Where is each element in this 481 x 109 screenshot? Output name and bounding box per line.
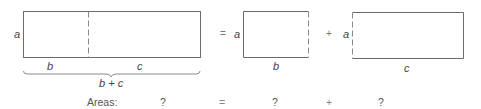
- whole-width-label-b: b: [47, 61, 53, 72]
- total-width-label: b + c: [99, 78, 123, 89]
- plus-sign: +: [326, 29, 332, 39]
- part-c-height-label: a: [343, 29, 349, 40]
- whole-area-value: ?: [160, 97, 166, 108]
- part-b-height-label: a: [234, 29, 240, 40]
- part-b-area-value: ?: [272, 97, 278, 108]
- part-b-width-label: b: [273, 61, 279, 72]
- whole-height-label: a: [14, 29, 20, 40]
- areas-plus-sign: +: [326, 97, 332, 108]
- part-c-area-value: ?: [378, 97, 384, 108]
- whole-rectangle: [24, 12, 201, 58]
- equals-sign: =: [220, 29, 226, 39]
- diagram-canvas: [0, 0, 481, 109]
- areas-label: Areas:: [87, 97, 117, 108]
- part-c-width-label: c: [404, 63, 410, 74]
- whole-width-label-c: c: [137, 61, 143, 72]
- areas-equals-sign: =: [219, 97, 225, 108]
